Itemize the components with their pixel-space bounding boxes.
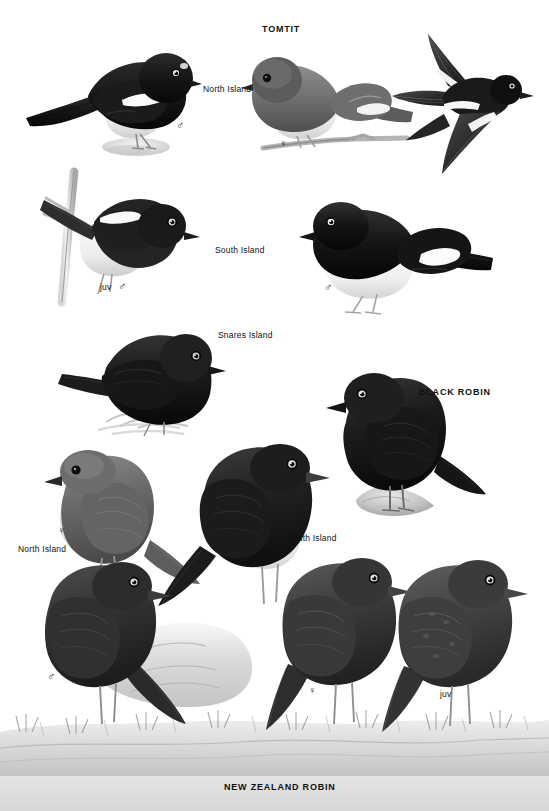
bird-tomtit-in-flight [382,28,542,183]
label-snares-island-tomtit: Snares Island [218,330,273,340]
symbol-male-tomtit-juvenile: ♂ [118,281,126,292]
label-juv-tomtit: juv [100,283,111,292]
label-south-island-tomtit: South Island [215,245,265,255]
species-heading-nz-robin: NEW ZEALAND ROBIN [224,782,336,792]
symbol-male-tomtit-north: ♂ [176,120,184,131]
symbol-male-nz-robin-lower: ♂ [47,671,55,682]
label-south-island-nz-robin: South Island [287,533,337,543]
symbol-female-nz-robin-north: ♀ [57,525,65,536]
symbol-male-tomtit-south: ♂ [324,282,332,293]
bird-tomtit-snares-island [58,318,233,443]
species-heading-tomtit: TOMTIT [262,24,300,34]
field-guide-plate: TOMTIT [0,0,549,811]
symbol-female-tomtit-north: ♀ [279,138,287,149]
label-north-island-tomtit: North Island [203,84,251,94]
bird-nz-robin-juvenile [368,552,548,732]
bird-nz-robin-male-lower [18,556,208,731]
label-north-island-nz-robin: North Island [18,544,66,554]
label-juv-nz-robin: juv [440,689,451,699]
bird-tomtit-north-island-male [18,22,203,162]
species-heading-black-robin: BLACK ROBIN [419,387,491,397]
bird-tomtit-south-island-male [305,190,500,315]
symbol-female-nz-robin-lower: ♀ [308,685,316,696]
symbol-male-nz-robin-south: ♂ [248,557,256,568]
